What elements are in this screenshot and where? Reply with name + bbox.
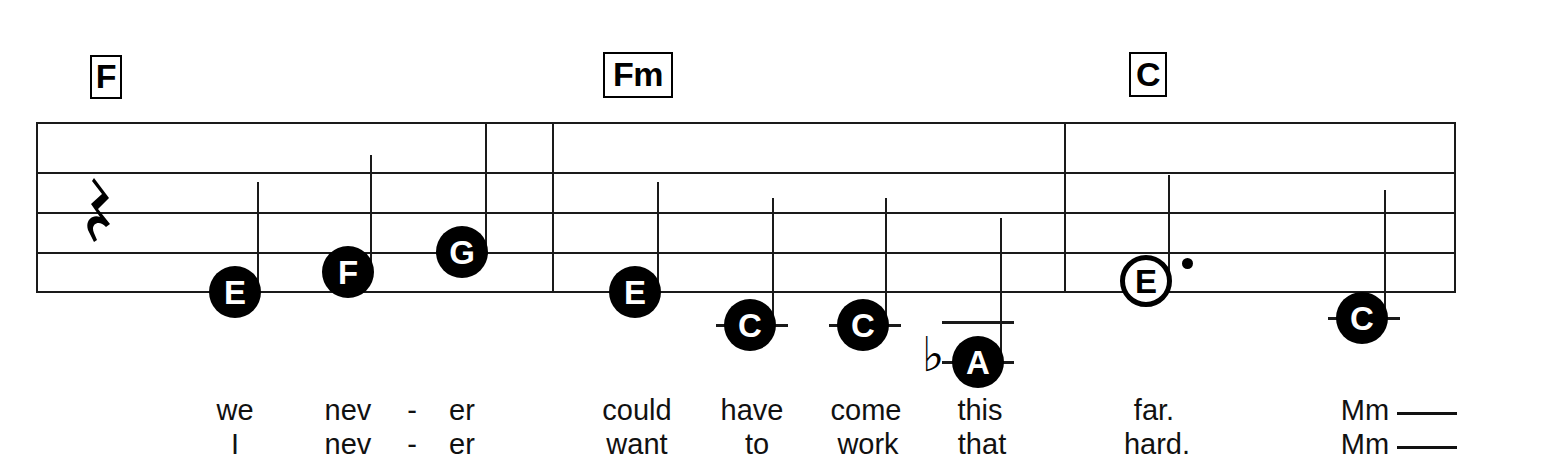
lyric-line1-this: this [957,396,1002,425]
chord-label: F [96,59,116,93]
stem-note-c-2 [885,198,887,326]
lyric-line2-work: work [837,430,898,459]
note-pitch-label: C [851,309,875,342]
stem-note-c-1 [772,198,774,326]
flat-accidental-icon: ♭ [922,330,945,378]
melisma-line1 [1397,412,1457,415]
note-g-1[interactable]: G [436,226,488,278]
chord-symbol-fm[interactable]: Fm [603,52,673,98]
lyric-line1-we: we [216,396,253,425]
melisma-line2 [1397,446,1457,449]
lyric-line2-mm: Mm [1341,430,1389,459]
lyric-line2-nev: nev [325,430,372,459]
note-pitch-label: C [1350,302,1374,335]
note-e-1[interactable]: E [209,266,261,318]
lyric-line2-hard: hard. [1124,430,1190,459]
sheet-music-canvas: F Fm C ♭ E F G E [0,0,1543,475]
chord-label: C [1136,57,1160,91]
lyric-line1-er: er [449,396,475,425]
barline-measure-1 [552,122,554,293]
lyric-line2-that: that [958,430,1006,459]
note-c-1[interactable]: C [724,299,776,351]
barline-measure-2 [1064,122,1066,293]
lyric-line1-could: could [602,396,671,425]
lyric-line2-i: I [231,430,239,459]
stem-note-f-1 [370,155,372,275]
note-pitch-label: E [224,276,246,309]
quarter-rest-icon [86,176,122,248]
note-pitch-label: G [449,236,475,269]
ledger-line-note-a-upper [942,321,1014,324]
stem-note-a-flat [1000,218,1002,364]
note-e-3[interactable]: E [1120,255,1172,307]
staff-line-2 [36,172,1456,174]
note-f-1[interactable]: F [322,246,374,298]
barline-staff-left [36,122,38,293]
stem-note-e-1 [257,182,259,294]
staff-line-4 [36,252,1456,254]
stem-note-c-3 [1384,190,1386,320]
note-pitch-label: E [624,276,646,309]
lyric-line2-to: to [745,430,769,459]
note-pitch-label: E [1135,265,1157,298]
lyric-line1-nev: nev [325,396,372,425]
chord-symbol-f[interactable]: F [90,55,122,99]
note-c-3[interactable]: C [1336,292,1388,344]
lyric-line2-hyphen: - [407,430,417,459]
staff-line-1 [36,122,1456,124]
lyric-line1-hyphen: - [407,396,417,425]
lyric-line1-come: come [831,396,902,425]
stem-note-g-1 [485,122,487,254]
note-pitch-label: A [966,346,990,379]
note-c-2[interactable]: C [837,299,889,351]
chord-symbol-c[interactable]: C [1129,52,1167,97]
note-pitch-label: C [738,309,762,342]
barline-final [1454,122,1456,293]
lyric-line1-far: far. [1134,396,1174,425]
augmentation-dot-icon [1182,258,1193,269]
staff-line-3 [36,212,1456,214]
lyric-line2-want: want [606,430,667,459]
chord-label: Fm [613,57,663,91]
note-pitch-label: F [338,256,358,289]
lyric-line1-have: have [721,396,784,425]
note-a-flat[interactable]: A [952,336,1004,388]
stem-note-e-2 [657,182,659,294]
lyric-line2-er: er [449,430,475,459]
lyric-line1-mm: Mm [1341,396,1389,425]
note-e-2[interactable]: E [609,266,661,318]
